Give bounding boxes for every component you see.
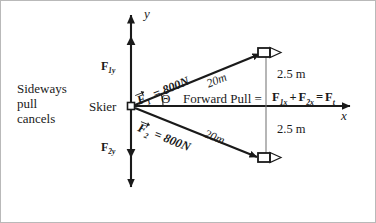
f2y-component-arrowhead	[127, 149, 136, 158]
forward-pull-equation: F1x+F2x=Ft	[272, 91, 335, 106]
forward-pull-label: Forward Pull =	[183, 92, 262, 105]
diagram-vector-layer	[1, 1, 376, 223]
f1y-component-arrowhead	[127, 36, 136, 45]
boat-lower-icon	[258, 153, 281, 163]
skier-label: Skier	[89, 100, 116, 113]
f2y-label: F2y	[101, 141, 115, 156]
skier-marker	[128, 103, 135, 110]
physics-diagram-canvas: y x Sideways pull cancels Skier F1y F2y …	[0, 0, 376, 223]
sideways-note-line3: cancels	[17, 112, 55, 125]
y-axis-label: y	[144, 7, 150, 20]
sideways-note-line1: Sideways	[17, 82, 67, 95]
boat-upper-icon	[258, 48, 281, 58]
distance-upper-label: 2.5 m	[277, 68, 305, 81]
sideways-note-line2: pull	[17, 97, 37, 110]
f1y-label: F1y	[101, 60, 115, 75]
angle-theta-label: Θ	[161, 92, 170, 105]
x-axis-label: x	[341, 109, 347, 122]
distance-lower-label: 2.5 m	[277, 123, 305, 136]
